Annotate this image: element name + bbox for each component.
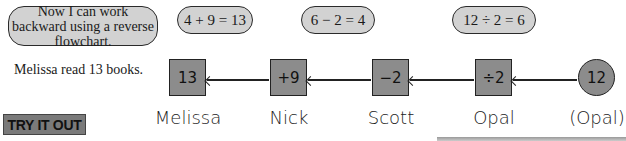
label-nick: Nick <box>239 107 339 128</box>
equation-bubble-1: 4 + 9 = 13 <box>177 6 253 34</box>
caption-text: Melissa read 13 books. <box>14 62 143 78</box>
flow-start-circle: 12 <box>578 59 615 96</box>
arrow-left-icon <box>410 79 474 81</box>
label-scott: Scott <box>341 107 441 128</box>
section-header: TRY IT OUT <box>3 114 86 135</box>
speech-bubble: Now I can work backward using a reverse … <box>8 6 158 46</box>
arrow-left-icon <box>513 79 577 81</box>
equation-bubble-2: 6 − 2 = 4 <box>301 6 375 34</box>
equation-bubble-3: 12 ÷ 2 = 6 <box>452 6 536 34</box>
label-opal-start: (Opal) <box>547 107 626 128</box>
flow-node-scott: −2 <box>372 59 409 96</box>
label-melissa: Melissa <box>138 107 238 128</box>
flow-node-nick: +9 <box>270 59 307 96</box>
arrow-left-icon <box>207 79 269 81</box>
arrow-left-icon <box>308 79 371 81</box>
flow-node-melissa: 13 <box>169 59 206 96</box>
label-opal: Opal <box>444 107 544 128</box>
divider-bar <box>437 137 626 141</box>
flow-node-opal: ÷2 <box>475 59 512 96</box>
